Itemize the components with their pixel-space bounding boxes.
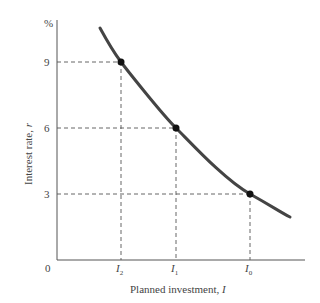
y-tick-6: 6 [44,122,50,134]
y-unit-label: % [44,17,53,29]
data-point-i2 [118,59,125,66]
investment-curve [100,28,290,217]
x-tick-i1: I1 [171,262,178,277]
y-axis-title: Interest rate, r [22,104,34,204]
data-point-i1 [173,125,180,132]
data-point-i0 [247,191,254,198]
x-axis-title: Planned investment, I [130,283,226,295]
origin-label: 0 [45,262,51,274]
guide-lines [57,62,250,260]
y-tick-3: 3 [44,188,50,200]
x-tick-i0: I0 [245,262,252,277]
chart-canvas [0,0,320,303]
y-tick-9: 9 [44,56,50,68]
x-tick-i2: I2 [116,262,123,277]
